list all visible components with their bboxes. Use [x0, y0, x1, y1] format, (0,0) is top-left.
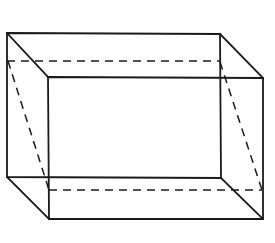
- background: [0, 0, 275, 243]
- cuboid-diagram: [0, 0, 275, 243]
